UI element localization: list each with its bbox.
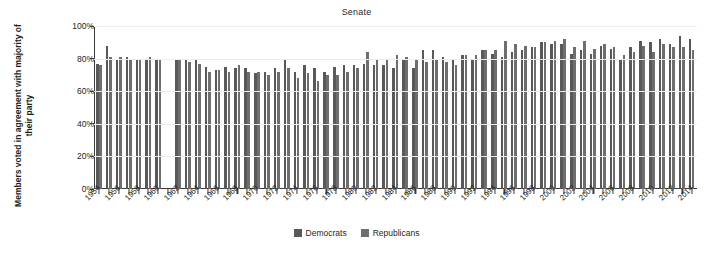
bar-democrats-1979 xyxy=(343,65,346,189)
bar-democrats-1971 xyxy=(264,72,267,189)
bar-democrats-1991 xyxy=(461,55,464,189)
bar-group xyxy=(173,26,183,189)
bar-group xyxy=(588,26,598,189)
legend-item-dem[interactable]: Democrats xyxy=(294,228,347,238)
bar-democrats-1969 xyxy=(244,68,247,189)
bar-group xyxy=(479,26,489,189)
chart-title: Senate xyxy=(0,7,713,17)
bar-republicans-2011 xyxy=(662,44,665,189)
bar-group xyxy=(578,26,588,189)
bar-group xyxy=(242,26,252,189)
legend-label: Republicans xyxy=(373,228,420,238)
bar-group xyxy=(420,26,430,189)
bar-republicans-2009 xyxy=(642,46,645,189)
y-tick-label: 20% xyxy=(48,151,94,161)
bar-group xyxy=(657,26,667,189)
bar-republicans-1990 xyxy=(455,65,458,189)
y-axis-label: Members voted in agreement with majority… xyxy=(13,21,34,211)
bar-group xyxy=(459,26,469,189)
bar-republicans-1992 xyxy=(475,55,478,189)
bar-republicans-1996 xyxy=(514,44,517,189)
legend-item-rep[interactable]: Republicans xyxy=(361,228,420,238)
gridline xyxy=(94,156,697,157)
bar-group xyxy=(617,26,627,189)
bar-republicans-1973 xyxy=(287,68,290,189)
bar-democrats-1968 xyxy=(234,68,237,189)
bar-democrats-1988 xyxy=(432,50,435,189)
bar-democrats-1987 xyxy=(422,50,425,189)
bar-group xyxy=(331,26,341,189)
bar-group xyxy=(380,26,390,189)
bar-republicans-1964 xyxy=(198,64,201,190)
bar-group xyxy=(627,26,637,189)
bar-democrats-1986 xyxy=(412,68,415,189)
bar-republicans-2014 xyxy=(692,50,695,189)
bar-group xyxy=(361,26,371,189)
bar-group xyxy=(134,26,144,189)
bar-group xyxy=(351,26,361,189)
bar-democrats-1967 xyxy=(224,67,227,189)
bar-republicans-2010 xyxy=(652,52,655,189)
bar-democrats-1976 xyxy=(313,68,316,189)
gridline xyxy=(94,59,697,60)
y-tick-label: 60% xyxy=(48,86,94,96)
bar-group xyxy=(94,26,104,189)
gridline xyxy=(94,124,697,125)
bar-group xyxy=(687,26,697,189)
bar-democrats-1974 xyxy=(294,72,297,189)
bar-group xyxy=(400,26,410,189)
bar-republicans-1995 xyxy=(504,41,507,189)
bar-democrats-2009 xyxy=(639,41,642,189)
y-tick-label: 40% xyxy=(48,119,94,129)
bar-group xyxy=(667,26,677,189)
bar-group xyxy=(450,26,460,189)
bar-republicans-1976 xyxy=(317,81,320,189)
bar-democrats-2006 xyxy=(610,49,613,189)
bar-democrats-2000 xyxy=(550,44,553,189)
bar-group xyxy=(598,26,608,189)
bar-republicans-1965 xyxy=(208,72,211,189)
bar-group xyxy=(183,26,193,189)
bar-republicans-1967 xyxy=(228,72,231,189)
bar-democrats-2012 xyxy=(669,44,672,189)
bar-republicans-1980 xyxy=(356,68,359,189)
bar-republicans-1979 xyxy=(346,72,349,189)
bar-group xyxy=(222,26,232,189)
bar-republicans-2005 xyxy=(603,44,606,189)
bar-group xyxy=(193,26,203,189)
bar-group xyxy=(341,26,351,189)
gridline xyxy=(94,91,697,92)
y-tick-label: 100% xyxy=(48,21,94,31)
bar-democrats-1975 xyxy=(303,65,306,189)
bar-republicans-1999 xyxy=(544,42,547,189)
senate-party-unity-chart: Senate Members voted in agreement with m… xyxy=(0,0,713,253)
bar-group xyxy=(548,26,558,189)
bar-group xyxy=(558,26,568,189)
bar-democrats-2001 xyxy=(560,44,563,189)
bar-republicans-2007 xyxy=(623,55,626,189)
bar-republicans-2013 xyxy=(682,47,685,189)
bar-group xyxy=(509,26,519,189)
bar-democrats-2008 xyxy=(629,47,632,189)
bar-group xyxy=(647,26,657,189)
bar-democrats-1954 xyxy=(96,64,99,190)
bar-group xyxy=(430,26,440,189)
bar-group xyxy=(608,26,618,189)
bar-group xyxy=(311,26,321,189)
bar-democrats-1993 xyxy=(481,50,484,189)
bar-democrats-2010 xyxy=(649,42,652,189)
bar-democrats-1983 xyxy=(382,65,385,189)
bar-republicans-1991 xyxy=(465,55,468,189)
bar-group xyxy=(301,26,311,189)
bar-republicans-1998 xyxy=(534,47,537,189)
bar-group xyxy=(440,26,450,189)
bar-group xyxy=(272,26,282,189)
bar-republicans-2004 xyxy=(593,49,596,189)
bar-democrats-1966 xyxy=(215,70,218,189)
bar-democrats-1982 xyxy=(373,65,376,189)
bar-group xyxy=(538,26,548,189)
legend-label: Democrats xyxy=(306,228,347,238)
bar-group xyxy=(124,26,134,189)
plot-area xyxy=(94,26,697,189)
bar-republicans-1968 xyxy=(238,65,241,189)
